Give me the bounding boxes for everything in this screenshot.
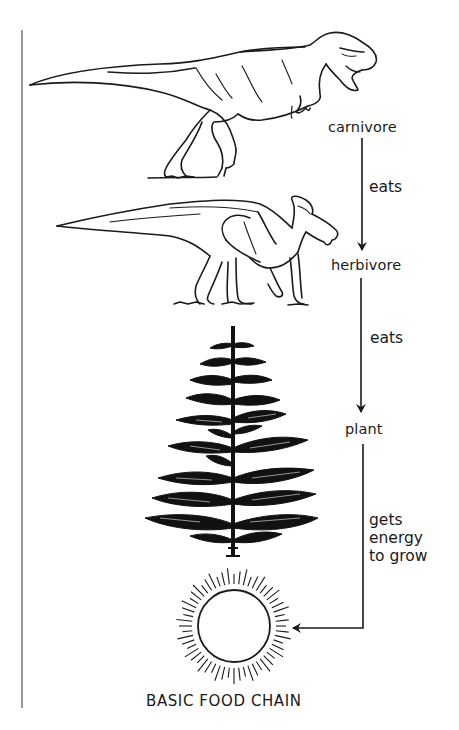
sun-ray xyxy=(274,640,283,643)
gets-energy-line-1: gets xyxy=(369,511,449,529)
sun-ray xyxy=(239,571,240,584)
sun-ray xyxy=(243,667,245,677)
sun-ray xyxy=(272,602,284,608)
sun-ray xyxy=(264,587,273,596)
sun-ray xyxy=(177,635,193,639)
sun-ray xyxy=(248,666,253,681)
sun-ray xyxy=(243,569,247,585)
sun-ray xyxy=(190,598,198,603)
sun-ray xyxy=(187,644,196,648)
parasaurolophus-icon xyxy=(57,196,338,305)
tree-icon xyxy=(145,326,318,556)
sun-ray xyxy=(222,572,225,585)
sun-ray xyxy=(191,592,201,600)
sun-ray xyxy=(215,666,220,681)
tyrannosaurus-icon xyxy=(30,32,376,178)
sun-ray xyxy=(182,608,194,612)
diagram-artwork xyxy=(0,0,459,730)
sun-ray xyxy=(182,640,194,644)
sun-ray xyxy=(182,631,192,632)
sun-ray xyxy=(276,631,289,632)
sun-ray xyxy=(270,598,278,603)
sun-ray xyxy=(267,652,275,658)
sun-ray xyxy=(272,644,284,650)
sun-ray xyxy=(197,656,204,663)
sun-ray xyxy=(183,614,193,616)
sun-ray xyxy=(256,662,261,670)
gets-energy-label: gets energy to grow xyxy=(369,511,449,565)
sun-ray xyxy=(176,620,192,622)
sun-ray xyxy=(228,668,229,678)
herbivore-label: herbivore xyxy=(331,258,401,273)
sun-ray xyxy=(252,664,258,676)
sun-ray xyxy=(209,574,216,588)
sun-ray xyxy=(228,568,230,584)
carnivore-label: carnivore xyxy=(328,120,397,135)
sun-ray xyxy=(222,667,225,680)
sun-ray xyxy=(205,662,212,673)
gets-energy-line-2: energy xyxy=(369,529,449,547)
sun-ray xyxy=(276,620,289,621)
sun-ray xyxy=(275,635,291,639)
sun-ray xyxy=(202,585,208,593)
gets-energy-line-3: to grow xyxy=(369,547,449,565)
eats-label-2: eats xyxy=(370,331,403,347)
sun-ray xyxy=(217,577,220,586)
sun-ray xyxy=(260,585,266,593)
sun-ray xyxy=(252,576,258,588)
sun-ray xyxy=(205,579,212,590)
diagram-caption: BASIC FOOD CHAIN xyxy=(146,694,302,709)
sun-ray xyxy=(248,577,251,586)
sun-ray xyxy=(239,668,240,681)
sun-ray xyxy=(264,656,273,665)
sun-ray xyxy=(182,601,196,608)
sun-icon xyxy=(176,568,290,684)
sun-ray xyxy=(211,664,215,673)
sun-ray xyxy=(274,607,289,612)
plant-label: plant xyxy=(345,422,383,437)
food-chain-diagram: carnivore eats herbivore eats plant gets… xyxy=(0,0,459,730)
sun-ray xyxy=(191,652,201,660)
eats-label-1: eats xyxy=(369,180,402,196)
sun-ray xyxy=(275,614,285,616)
